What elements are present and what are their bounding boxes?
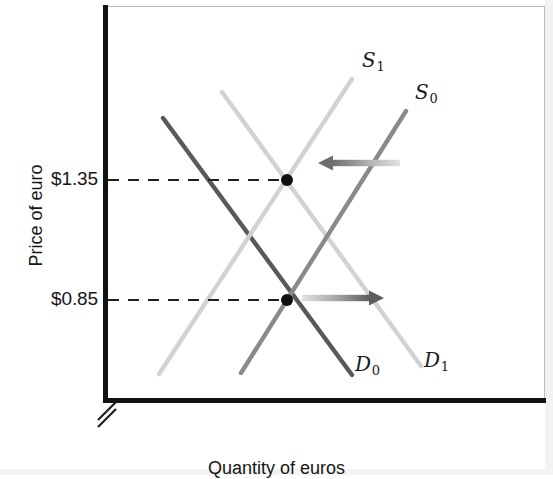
curve-s1 [159,79,352,374]
curve-label-subscript: 1 [376,59,384,74]
arrow-shaft [302,295,369,301]
curve-label-base: D [355,352,371,376]
curve-label-d1: D1 [424,348,449,372]
arrow-shaft [333,160,400,166]
supply-shift-arrow-left [318,156,400,171]
arrow-head [318,156,333,171]
curve-label-s1: S1 [362,48,384,72]
curve-label-base: S [362,48,376,72]
curve-d0 [163,118,352,375]
curve-label-d0: D0 [355,352,380,376]
curve-label-base: D [424,348,440,372]
curve-label-subscript: 1 [441,359,449,374]
demand-shift-arrow-right [302,291,384,306]
curve-label-subscript: 0 [429,91,437,106]
y-axis-title: Price of euro [26,136,47,296]
curve-label-s0: S0 [415,80,437,104]
equilibrium-high-dot [281,174,293,186]
curve-label-subscript: 0 [372,363,380,378]
curve-label-base: S [415,80,429,104]
equilibrium-low-dot [281,294,293,306]
x-axis-title: Quantity of euros [0,458,553,479]
